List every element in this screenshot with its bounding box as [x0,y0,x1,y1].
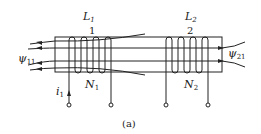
arrow-flux-right-2 [218,59,224,63]
arrow-current-i1 [67,90,71,96]
label-L1: L1 [82,10,95,24]
arrow-flux-right-1 [218,46,224,50]
label-coil1-mark: 1 [89,25,95,36]
terminal-2b[interactable] [206,103,210,107]
terminal-1b[interactable] [109,103,113,107]
arrow-flux-left-3 [36,61,42,65]
label-L2: L2 [184,10,197,24]
label-i1: i1 [56,85,64,99]
terminal-2a[interactable] [164,103,168,107]
terminal-1a[interactable] [67,103,71,107]
label-N2: N2 [183,78,198,92]
coil-1-windings [69,37,111,103]
label-psi21: ψ21 [228,47,246,61]
flux-curve-left-4 [30,68,55,70]
coil-2-windings [166,37,208,103]
label-N1: N1 [84,78,99,92]
magnetic-core [55,37,222,72]
flux-curve-right-2 [222,61,245,67]
label-coil2-mark: 2 [187,25,193,36]
arrow-flux-left-2 [36,46,42,50]
figure-caption: (a) [122,118,136,129]
coupled-coils-diagram: L1 1 L2 2 ψ11 ψ21 N1 N2 i1 (a) [0,0,261,134]
flux-curve-left-1 [30,41,55,44]
label-psi11: ψ11 [18,52,36,66]
arrow-flux-left-4 [36,67,42,71]
